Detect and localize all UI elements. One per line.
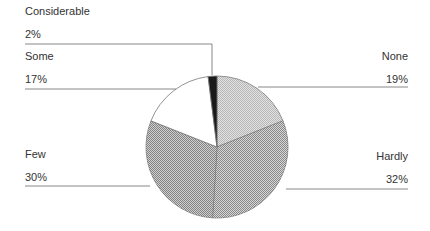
pie-slices [146,76,288,218]
label-hardly-name: Hardly [376,150,408,162]
pie-chart [0,0,430,231]
label-few-pct: 30% [25,171,47,183]
label-some-name: Some [25,50,54,62]
label-none-pct: 19% [386,73,408,85]
label-none-name: None [382,50,408,62]
label-few-name: Few [25,148,46,160]
label-some-pct: 17% [25,73,47,85]
label-considerable-name: Considerable [25,5,90,17]
label-hardly-pct: 32% [386,173,408,185]
label-considerable-pct: 2% [25,28,41,40]
